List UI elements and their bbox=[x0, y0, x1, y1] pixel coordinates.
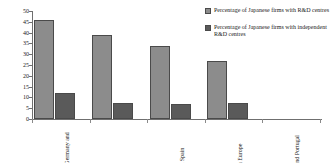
bar-group bbox=[92, 11, 133, 119]
y-axis-tick-label: 15 bbox=[0, 84, 32, 90]
y-axis-tick-mark bbox=[29, 108, 32, 109]
bar-chart: 05101520253035404550 France, Germany and… bbox=[0, 0, 335, 163]
y-axis-tick-mark bbox=[29, 87, 32, 88]
x-axis-category-label: Greece and Portugal bbox=[294, 124, 301, 163]
bar bbox=[207, 61, 227, 119]
bar-group bbox=[150, 11, 191, 119]
y-axis-tick-mark bbox=[29, 76, 32, 77]
legend-label: Percentage of Japanese firms with indepe… bbox=[214, 24, 333, 39]
y-axis-tick-label: 20 bbox=[0, 73, 32, 79]
y-axis-tick-mark bbox=[29, 11, 32, 12]
y-axis-tick-label: 10 bbox=[0, 94, 32, 100]
x-axis-tick-mark bbox=[205, 119, 206, 123]
y-axis-tick-label: 30 bbox=[0, 51, 32, 57]
y-axis-tick-mark bbox=[29, 22, 32, 23]
bar bbox=[171, 104, 191, 119]
y-axis-tick-mark bbox=[29, 43, 32, 44]
y-axis-tick-mark bbox=[29, 33, 32, 34]
bar bbox=[228, 103, 248, 119]
x-axis-category-label: Benelux bbox=[121, 124, 128, 163]
y-axis-tick-label: 50 bbox=[0, 8, 32, 14]
chart-legend: Percentage of Japanese firms with R&D ce… bbox=[205, 7, 333, 48]
y-axis-tick-mark bbox=[29, 54, 32, 55]
y-axis-tick-mark bbox=[29, 65, 32, 66]
bar bbox=[92, 35, 112, 119]
legend-swatch bbox=[205, 8, 211, 14]
bar bbox=[34, 20, 54, 119]
bar bbox=[55, 93, 75, 119]
legend-item: Percentage of Japanese firms with indepe… bbox=[205, 24, 333, 39]
bar bbox=[113, 103, 133, 119]
x-axis-tick-mark bbox=[320, 119, 321, 123]
y-axis-tick-label: 45 bbox=[0, 19, 32, 25]
x-axis-tick-mark bbox=[32, 119, 33, 123]
y-axis-tick-label: 0 bbox=[0, 116, 32, 122]
bar-group bbox=[34, 11, 75, 119]
legend-item: Percentage of Japanese firms with R&D ce… bbox=[205, 7, 333, 15]
x-axis-category-label: France, Germany and UK bbox=[64, 124, 78, 163]
y-axis-tick-label: 5 bbox=[0, 105, 32, 111]
y-axis-tick-label: 25 bbox=[0, 62, 32, 68]
x-axis-category-label: Italy and Spain bbox=[179, 124, 186, 163]
y-axis-tick-label: 40 bbox=[0, 30, 32, 36]
x-axis-tick-mark bbox=[262, 119, 263, 123]
x-axis-category-label: Northern Europe bbox=[237, 124, 244, 163]
x-axis-tick-mark bbox=[147, 119, 148, 123]
bar bbox=[150, 46, 170, 119]
x-axis-tick-mark bbox=[90, 119, 91, 123]
legend-label: Percentage of Japanese firms with R&D ce… bbox=[214, 7, 329, 15]
x-axis-line bbox=[32, 119, 322, 120]
y-axis-tick-label: 35 bbox=[0, 40, 32, 46]
legend-swatch bbox=[205, 25, 211, 31]
y-axis-tick-mark bbox=[29, 97, 32, 98]
